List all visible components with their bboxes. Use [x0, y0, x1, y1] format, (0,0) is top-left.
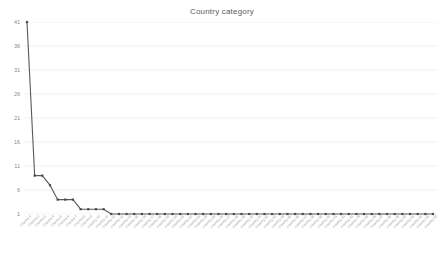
data-point-marker: [41, 175, 43, 177]
y-axis-tick-labels: 1611162126313641: [0, 22, 24, 214]
chart-title: Country category: [0, 7, 444, 16]
y-axis-tick-label: 16: [14, 139, 20, 145]
y-axis-tick-label: 21: [14, 115, 20, 121]
chart-container: Country category 1611162126313641 Countr…: [0, 0, 444, 257]
data-point-marker: [34, 175, 36, 177]
x-axis-tick-labels: Country 1Country 2Country 3Country 4Coun…: [24, 215, 436, 257]
data-point-marker: [57, 199, 59, 201]
y-axis-tick-label: 6: [17, 187, 20, 193]
data-point-marker: [64, 199, 66, 201]
data-point-marker: [87, 208, 89, 210]
data-point-marker: [80, 208, 82, 210]
plot-area: [24, 22, 436, 214]
y-axis-tick-label: 26: [14, 91, 20, 97]
series-polyline: [27, 22, 433, 214]
data-point-marker: [95, 208, 97, 210]
data-point-marker: [103, 208, 105, 210]
data-point-marker: [72, 199, 74, 201]
data-point-marker: [49, 184, 51, 186]
y-axis-tick-label: 31: [14, 67, 20, 73]
data-point-marker: [26, 21, 28, 23]
y-axis-tick-label: 41: [14, 19, 20, 25]
data-series-line: [24, 22, 436, 214]
y-axis-tick-label: 1: [17, 211, 20, 217]
y-axis-tick-label: 11: [14, 163, 20, 169]
y-axis-tick-label: 36: [14, 43, 20, 49]
